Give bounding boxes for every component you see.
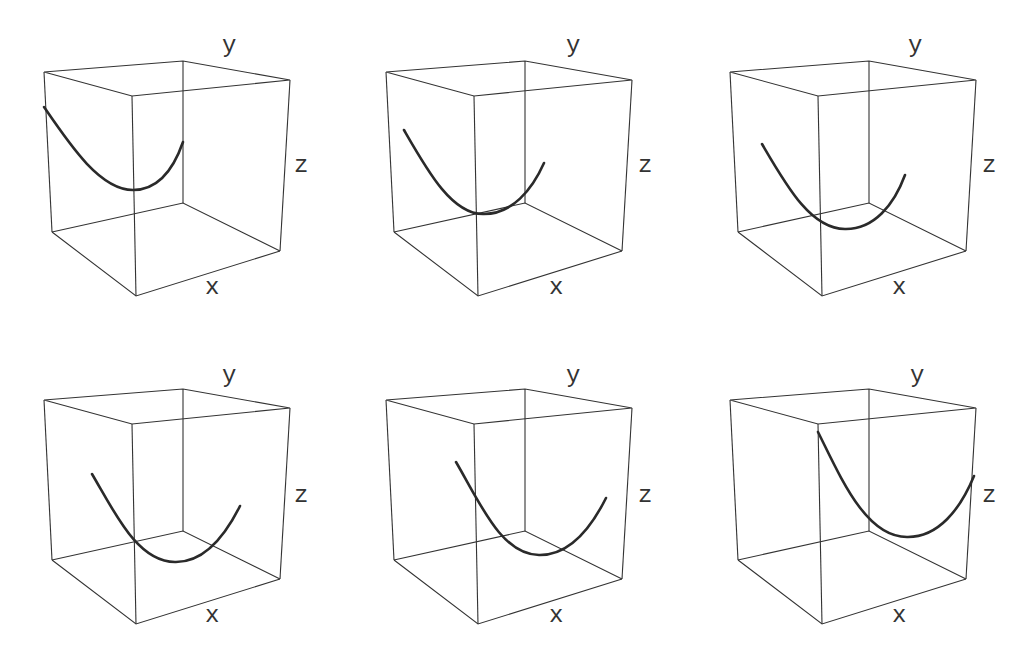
parabola-curve bbox=[762, 144, 905, 229]
bounding-box bbox=[386, 389, 632, 624]
z-axis-label: z bbox=[982, 154, 996, 178]
y-axis-label: y bbox=[566, 364, 580, 388]
cube-plot bbox=[716, 358, 1034, 664]
y-axis-label: y bbox=[908, 34, 922, 58]
panel-3: y z x bbox=[716, 30, 1034, 350]
parabola-curve bbox=[818, 432, 974, 537]
z-axis-label: z bbox=[294, 484, 308, 508]
x-axis-label: x bbox=[549, 276, 563, 300]
z-axis-label: z bbox=[638, 484, 652, 508]
y-axis-label: y bbox=[566, 34, 580, 58]
bounding-box bbox=[44, 61, 290, 296]
cube-plot bbox=[30, 358, 360, 664]
panel-5: y z x bbox=[372, 358, 702, 664]
y-axis-label: y bbox=[910, 364, 924, 388]
cube-plot bbox=[372, 358, 702, 664]
panel-4: y z x bbox=[30, 358, 360, 664]
bounding-box bbox=[386, 61, 632, 296]
parabola-curve bbox=[404, 130, 544, 214]
panel-6: y z x bbox=[716, 358, 1034, 664]
x-axis-label: x bbox=[892, 276, 906, 300]
y-axis-label: y bbox=[222, 34, 236, 58]
z-axis-label: z bbox=[982, 484, 996, 508]
x-axis-label: x bbox=[892, 604, 906, 628]
y-axis-label: y bbox=[222, 364, 236, 388]
bounding-box bbox=[44, 389, 290, 624]
bounding-box bbox=[730, 61, 976, 296]
z-axis-label: z bbox=[638, 154, 652, 178]
x-axis-label: x bbox=[205, 604, 219, 628]
panel-1: y z x bbox=[30, 30, 360, 350]
parabola-curve bbox=[44, 107, 183, 190]
cube-plot bbox=[716, 30, 1034, 350]
x-axis-label: x bbox=[205, 276, 219, 300]
x-axis-label: x bbox=[549, 604, 563, 628]
bounding-box bbox=[730, 389, 976, 624]
cube-plot bbox=[30, 30, 360, 350]
cube-plot bbox=[372, 30, 702, 350]
panel-2: y z x bbox=[372, 30, 702, 350]
z-axis-label: z bbox=[294, 154, 308, 178]
